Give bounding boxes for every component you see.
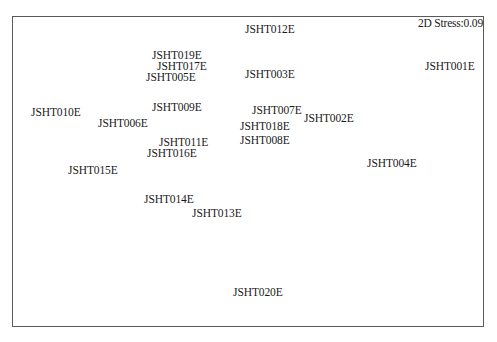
- point-label-jsht010e: JSHT010E: [31, 107, 81, 118]
- point-label-jsht012e: JSHT012E: [245, 24, 295, 35]
- point-label-jsht020e: JSHT020E: [233, 287, 283, 298]
- point-label-jsht009e: JSHT009E: [152, 102, 202, 113]
- point-label-jsht001e: JSHT001E: [425, 61, 475, 72]
- point-label-jsht006e: JSHT006E: [98, 118, 148, 129]
- stress-annotation: 2D Stress:0.09: [418, 18, 483, 29]
- point-label-jsht008e: JSHT008E: [240, 135, 290, 146]
- point-label-jsht003e: JSHT003E: [245, 69, 295, 80]
- point-label-jsht004e: JSHT004E: [367, 158, 417, 169]
- point-label-jsht018e: JSHT018E: [240, 121, 290, 132]
- point-label-jsht013e: JSHT013E: [192, 208, 242, 219]
- point-label-jsht005e: JSHT005E: [146, 72, 196, 83]
- point-label-jsht014e: JSHT014E: [144, 194, 194, 205]
- point-label-jsht015e: JSHT015E: [68, 165, 118, 176]
- point-label-jsht002e: JSHT002E: [304, 113, 354, 124]
- point-label-jsht007e: JSHT007E: [252, 105, 302, 116]
- point-label-jsht016e: JSHT016E: [147, 148, 197, 159]
